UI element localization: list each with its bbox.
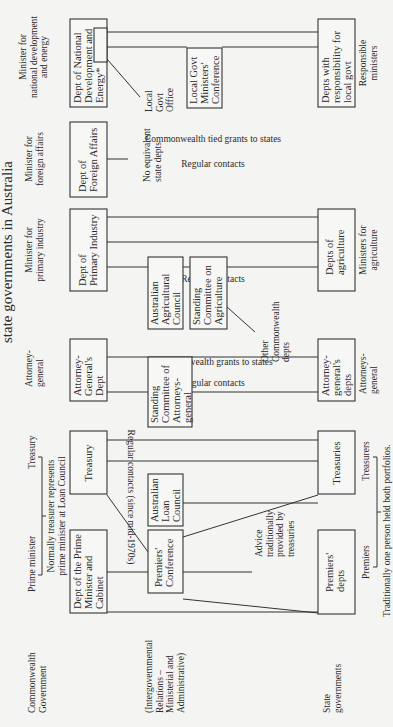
box-pm-cabinet: Dept of the PrimeMinister andCabinet [70, 530, 107, 613]
label-attorneys-general: Attorneys-general [358, 353, 379, 394]
diagram-title: state governments in Australia [0, 161, 15, 343]
box-agricultural-council: AustralianAgriculturalCouncil [148, 257, 183, 329]
box-attorney-general-dept: Attorney-General'sDept [70, 339, 107, 401]
other-depts-note: OtherCommonwealthdepts [260, 301, 291, 362]
svg-text:Treasury: Treasury [83, 444, 94, 482]
label-minister-foreign-affairs: Minister forforeign affairs [24, 132, 45, 186]
premiers-treasurers-bracket [373, 457, 381, 567]
regular-contacts-since-label: Regular contacts (since mid-1970s) [125, 430, 136, 565]
box-premiers-depts: Premiers'depts [318, 530, 355, 614]
regular-contacts-agri-label: Regular contacts [181, 159, 245, 169]
label-prime-minister: Prime minister [27, 535, 37, 592]
label-ministers-agriculture: Ministers foragriculture [358, 224, 379, 274]
svg-text:Local GovtMinisters'Conference: Local GovtMinisters'Conference [188, 55, 221, 104]
svg-text:Treasuries: Treasuries [331, 441, 342, 484]
svg-text:(IntergovernmentalRelations –M: (IntergovernmentalRelations –Ministerial… [144, 639, 187, 713]
label-premiers: Premiers [361, 545, 371, 579]
box-sc-attorneys: StandingCommittee ofAttorneys-general [148, 357, 193, 427]
label-treasury-minister: Treasury [27, 435, 37, 469]
label-minister-primary-industry: Minister forprimary industry [24, 218, 45, 282]
box-treasury: Treasury [70, 431, 107, 494]
intergovernmental-relations-diagram: state governments in Australia Commonwea… [0, 0, 393, 727]
label-pm-treasury-note: Normally treasurer representsprime minis… [46, 456, 67, 576]
advice-note: Advicetraditionallyprovided bytreasuries [254, 510, 296, 557]
box-premiers-conference: Premiers'Conference [148, 530, 183, 593]
box-treasuries: Treasuries [318, 431, 355, 494]
label-minister-national-development: Minister fornational developmentand ener… [18, 16, 49, 98]
svg-text:CommonwealthGovernment: CommonwealthGovernment [27, 652, 48, 713]
label-treasurers: Treasurers [361, 441, 371, 481]
footnote: Traditionally one person held both portf… [382, 444, 392, 617]
box-foreign-affairs: Dept ofForeign Affairs [70, 122, 107, 197]
pm-treasury-bracket [38, 457, 46, 575]
box-depts-local-govt: Depts withresponsibility forlocal govt [318, 19, 355, 107]
local-govt-office-note: LocalGovtOffice [144, 88, 175, 112]
row-label-intergovernmental: (IntergovernmentalRelations –Ministerial… [144, 639, 187, 713]
box-primary-industry: Dept ofPrimary Industry [70, 209, 107, 291]
label-responsible-ministers: Responsibleministers [358, 40, 379, 86]
box-sc-agriculture: StandingCommittee onAgriculture [190, 257, 227, 329]
box-ag-depts: Attorney-general'sdepts [318, 339, 355, 401]
tied-grants-label: Commonwealth tied grants to states [145, 134, 281, 144]
label-attorney-general: Attorney-general [24, 350, 45, 387]
box-loan-council: AustralianLoanCouncil [148, 474, 183, 526]
box-local-govt-conference: Local GovtMinisters'Conference [187, 48, 222, 108]
box-depts-agriculture: Depts ofagriculture [318, 209, 355, 291]
rotated-diagram: state governments in Australia Commonwea… [0, 0, 393, 727]
row-label-state: Stategovernments [322, 664, 343, 713]
row-label-commonwealth: CommonwealthGovernment [27, 652, 48, 713]
svg-text:Stategovernments: Stategovernments [322, 664, 343, 713]
box-national-development: Dept of NationalDevelopment andEnergy* [70, 19, 107, 107]
